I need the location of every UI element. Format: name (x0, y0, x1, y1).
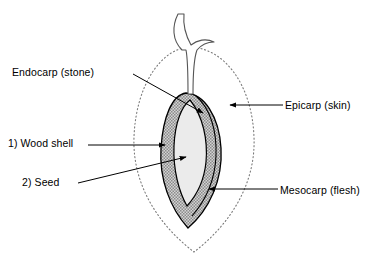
fruit-diagram-svg (0, 0, 370, 270)
label-epicarp: Epicarp (skin) (285, 99, 351, 112)
label-wood-shell: 1) Wood shell (8, 137, 73, 150)
label-endocarp: Endocarp (stone) (12, 66, 94, 79)
label-seed: 2) Seed (22, 176, 59, 189)
label-mesocarp: Mesocarp (flesh) (280, 184, 360, 197)
drupe-cross-section-figure: Endocarp (stone) 1) Wood shell 2) Seed E… (0, 0, 370, 270)
